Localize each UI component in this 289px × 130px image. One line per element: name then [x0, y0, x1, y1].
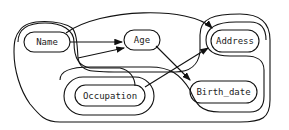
svg-text:Occupation: Occupation: [83, 91, 137, 101]
edge-group-age: [78, 48, 124, 58]
svg-text:Name: Name: [36, 37, 58, 47]
node-birth-date[interactable]: Birth_date: [190, 81, 257, 103]
svg-text:Birth_date: Birth_date: [196, 87, 250, 97]
node-address[interactable]: Address: [211, 30, 259, 52]
svg-text:Age: Age: [134, 35, 150, 45]
node-occupation[interactable]: Occupation: [75, 85, 145, 106]
edge-age-birthdate: [156, 46, 190, 80]
node-name[interactable]: Name: [24, 32, 70, 52]
diagram-canvas: Name Age Address Occupation Birth_date: [0, 0, 289, 130]
node-age[interactable]: Age: [124, 30, 160, 50]
svg-text:Address: Address: [216, 36, 254, 46]
